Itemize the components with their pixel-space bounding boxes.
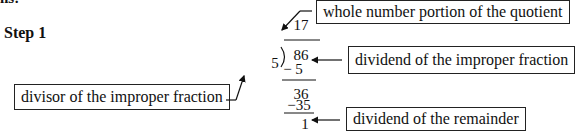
division-lines-and-arrows <box>0 0 576 136</box>
quotient-arrow-icon <box>282 11 312 30</box>
divisor-arrow-icon <box>226 76 244 100</box>
